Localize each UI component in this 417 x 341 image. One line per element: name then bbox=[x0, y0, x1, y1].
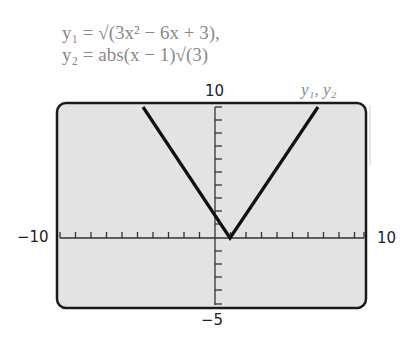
ymin-label: −5 bbox=[201, 311, 223, 329]
graph-screen bbox=[0, 0, 417, 341]
series-label: y₁, y₂ bbox=[301, 80, 336, 100]
xmin-label: −10 bbox=[17, 228, 49, 246]
ymax-label: 10 bbox=[205, 82, 224, 100]
xmax-label: 10 bbox=[377, 229, 396, 247]
screen-frame bbox=[57, 103, 366, 308]
